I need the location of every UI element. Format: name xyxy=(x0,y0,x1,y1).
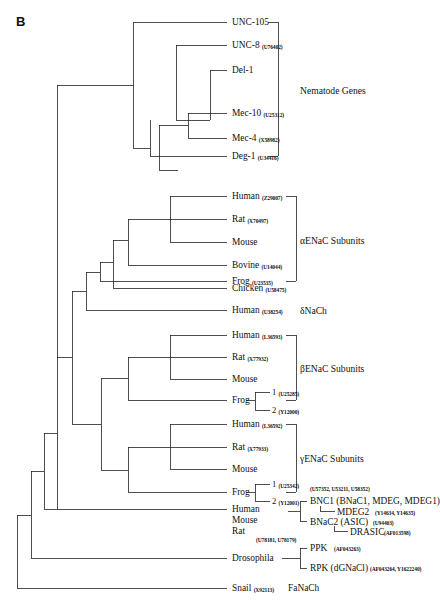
leaf-label-alpha-bovine: Bovine (U14044) xyxy=(232,260,282,271)
accession: (U14044) xyxy=(261,263,282,269)
cluster-label-mdeg2: MDEG2 xyxy=(337,507,369,517)
accession: (L36593) xyxy=(262,333,282,339)
accession: (U58475) xyxy=(266,286,287,292)
accession: (X92113) xyxy=(254,586,274,592)
taxon-name: Deg-1 xyxy=(232,151,255,161)
accession: (X77932) xyxy=(247,355,268,361)
cluster-label-bnac2: BNaC2 (ASIC) xyxy=(310,517,368,527)
leaf-label-alpha-human: Human (Z29007) xyxy=(232,191,282,202)
group-label-beta-enac: βENaC Subunits xyxy=(300,363,364,374)
taxon-name: Rat xyxy=(232,214,245,224)
accession: (Y12000) xyxy=(278,409,299,415)
leaf-label-del1: Del-1 xyxy=(232,65,253,76)
leaf-label-gamma-mouse: Mouse xyxy=(232,464,258,475)
accession-bnac2: (U94403) xyxy=(373,520,394,526)
accession-ppk: (AF043263) xyxy=(334,546,361,552)
accession: (Y12001) xyxy=(278,500,299,506)
subleaf-number: 2 xyxy=(272,496,276,506)
accession: (X70497) xyxy=(247,217,268,223)
accession-asic-rat: (U78181, U78179) xyxy=(256,537,296,543)
group-label-delta-nach: δNaCh xyxy=(300,305,327,316)
accession: (U23535) xyxy=(252,279,273,285)
accession-bnc1: (U57352, U53211, U58352) xyxy=(310,486,370,492)
subleaf-beta-frog-2: 2 (Y12000) xyxy=(272,405,299,415)
leaf-label-mec10: Mec-10 (U25312) xyxy=(232,108,284,119)
taxon-name: Rat xyxy=(232,352,245,362)
taxon-name: Mouse xyxy=(232,515,258,525)
leaf-label-beta-human: Human (L36593) xyxy=(232,330,282,341)
taxon-name: Rat xyxy=(232,526,245,536)
taxon-name: Mouse xyxy=(232,237,258,247)
accession: (U38254) xyxy=(262,308,283,314)
leaf-label-alpha-mouse: Mouse xyxy=(232,237,258,248)
leaf-label-drosophila: Drosophila xyxy=(232,553,274,563)
taxon-name: Drosophila xyxy=(232,553,274,563)
taxon-name: Human xyxy=(232,419,260,429)
taxon-name: Rat xyxy=(232,442,245,452)
group-label-alpha-enac: αENaC Subunits xyxy=(300,235,364,246)
accession-drasic: (AF013598) xyxy=(384,530,411,536)
leaf-label-beta-frog: Frog xyxy=(232,395,250,405)
cluster-label-fanach: FaNaCh xyxy=(288,583,319,593)
taxon-name: Snail xyxy=(232,583,251,593)
accession: (Z29007) xyxy=(262,194,282,200)
subleaf-number: 1 xyxy=(272,387,276,397)
accession-rpk: (AF043264, Y1622240) xyxy=(370,566,421,572)
leaf-label-snail: Snail (X92113) xyxy=(232,583,274,594)
taxon-name: Frog xyxy=(232,276,250,286)
leaf-label-unc105: UNC-105 xyxy=(232,17,269,28)
accession: (U25285) xyxy=(278,391,299,397)
subleaf-number: 2 xyxy=(272,405,276,415)
taxon-name: Human xyxy=(232,305,260,315)
taxon-name: Mec-4 xyxy=(232,133,256,143)
leaf-label-gamma-human: Human (L36592) xyxy=(232,419,282,430)
accession: (U34416) xyxy=(258,154,279,160)
subleaf-beta-frog-1: 1 (U25285) xyxy=(272,387,299,397)
accession-mdeg2: (Y14634, Y14635) xyxy=(375,510,415,516)
taxon-name: Human xyxy=(232,504,260,514)
taxon-name: Human xyxy=(232,191,260,201)
subleaf-gamma-frog-1: 1 (U25342) xyxy=(272,479,299,489)
taxon-name: Mouse xyxy=(232,374,258,384)
leaf-label-frog-alpha: Frog (U23535) xyxy=(232,276,273,287)
leaf-label-unc8: UNC-8 (U76402) xyxy=(232,40,283,51)
taxon-name: Mouse xyxy=(232,464,258,474)
cluster-label-rpk: RPK (dGNaCl) xyxy=(310,563,368,573)
taxon-name: Mec-10 xyxy=(232,108,261,118)
accession: (L36592) xyxy=(262,422,282,428)
group-label-gamma-enac: γENaC Subunits xyxy=(300,453,364,464)
accession: (U25312) xyxy=(264,111,285,117)
taxon-name: UNC-8 xyxy=(232,40,260,50)
accession: (U25342) xyxy=(278,483,299,489)
accession: (X58982) xyxy=(259,136,280,142)
leaf-label-asic-human: Human xyxy=(232,504,260,514)
subleaf-number: 1 xyxy=(272,479,276,489)
taxon-name: Bovine xyxy=(232,260,259,270)
leaf-label-alpha-rat: Rat (X70497) xyxy=(232,214,268,225)
accession: (U76402) xyxy=(262,43,283,49)
taxon-name: Del-1 xyxy=(232,65,253,75)
leaf-label-beta-mouse: Mouse xyxy=(232,374,258,385)
cluster-label-drasic: DRASIC xyxy=(350,527,384,537)
cluster-label-bnc1: BNC1 (BNaC1, MDEG, MDEG1) xyxy=(310,496,440,506)
leaf-label-asic-mouse: Mouse xyxy=(232,515,258,525)
taxon-name: Human xyxy=(232,330,260,340)
leaf-label-mec4: Mec-4 (X58982) xyxy=(232,133,279,144)
subleaf-gamma-frog-2: 2 (Y12001) xyxy=(272,496,299,506)
taxon-name: Frog xyxy=(232,395,250,405)
leaf-label-asic-rat: Rat xyxy=(232,526,245,536)
leaf-label-gamma-rat: Rat (X77933) xyxy=(232,442,268,453)
leaf-label-deg1: Deg-1 (U34416) xyxy=(232,151,278,162)
leaf-label-delta-human: Human (U38254) xyxy=(232,305,283,316)
taxon-name: Frog xyxy=(232,487,250,497)
taxon-name: UNC-105 xyxy=(232,17,269,27)
leaf-label-gamma-frog: Frog xyxy=(232,487,250,497)
cluster-label-ppk: PPK xyxy=(310,543,327,553)
group-label-nematode: Nematode Genes xyxy=(300,85,366,96)
accession: (X77933) xyxy=(247,445,268,451)
leaf-label-beta-rat: Rat (X77932) xyxy=(232,352,268,363)
